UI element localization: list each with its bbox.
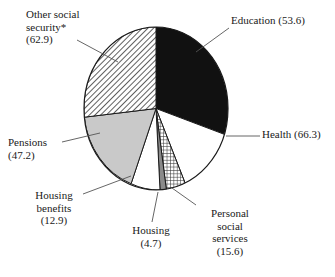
pie-label-pensions: Pensions (47.2)	[8, 136, 47, 161]
leader-line-education	[196, 28, 229, 52]
leader-line-personal-social-services	[172, 188, 196, 205]
pie-label-housing: Housing (4.7)	[118, 224, 184, 249]
pie-chart: Other social security* (62.9) Education …	[0, 0, 335, 277]
pie-label-other-social-security: Other social security* (62.9)	[26, 8, 79, 46]
pie-label-education: Education (53.6)	[231, 14, 305, 27]
leader-line-housing	[152, 192, 158, 222]
pie-slice-other-social-security	[84, 27, 156, 117]
pie-label-housing-benefits: Housing benefits (12.9)	[17, 189, 91, 227]
pie-label-health: Health (66.3)	[262, 128, 321, 141]
pie-label-personal-social-services: Personal social services (15.6)	[192, 207, 268, 257]
